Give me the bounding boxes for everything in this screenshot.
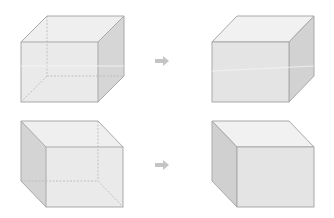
solid-cube-top	[212, 16, 314, 102]
arrow-right-icon	[155, 160, 169, 170]
transparent-cube-top	[21, 16, 124, 102]
cube-diagram	[0, 0, 334, 218]
transparent-cube-bottom	[21, 121, 123, 207]
diagram-canvas	[0, 0, 334, 218]
arrow-right-icon	[155, 56, 169, 66]
solid-cube-bottom	[212, 121, 314, 207]
